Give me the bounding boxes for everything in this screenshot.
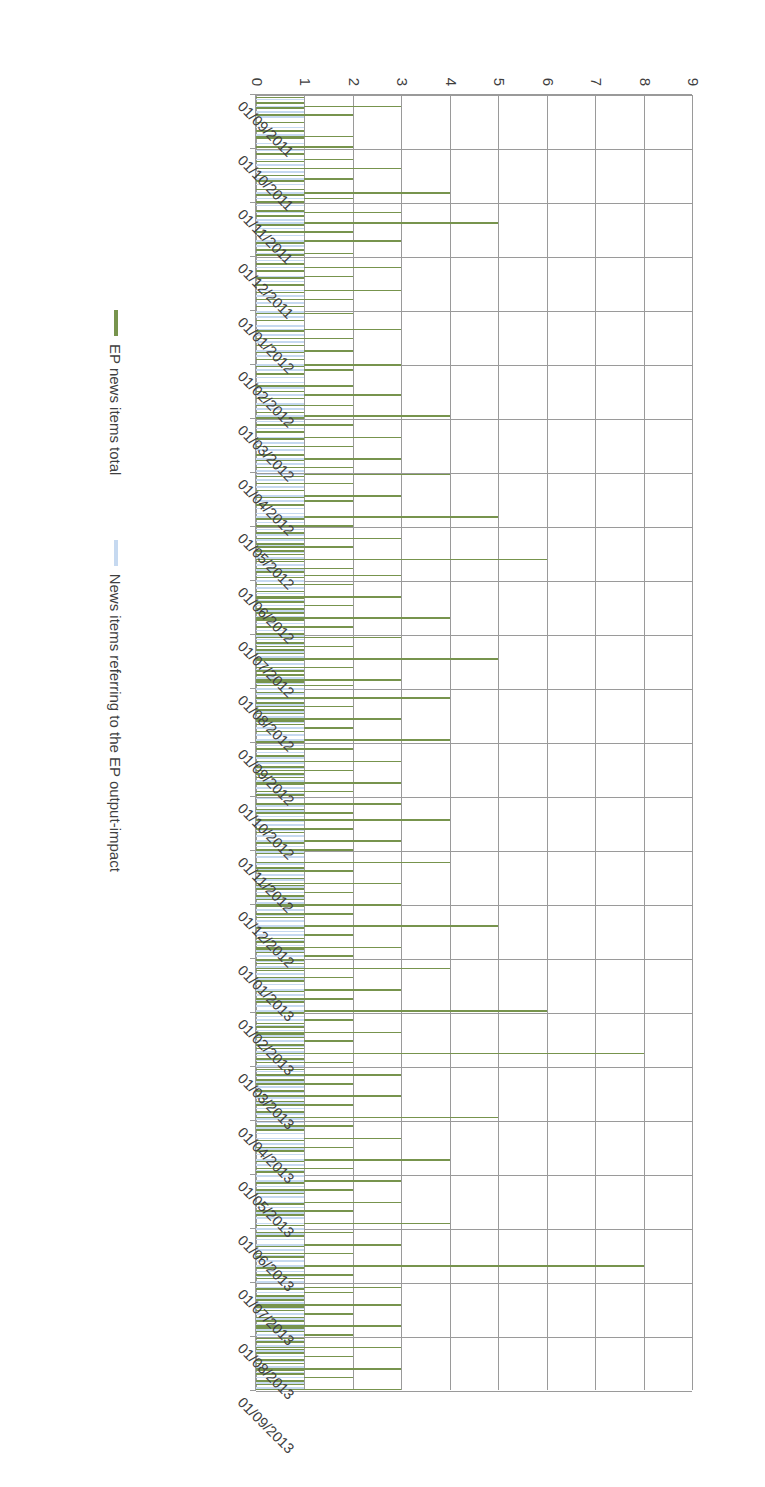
bar-group <box>256 553 692 555</box>
bar-group <box>256 751 692 753</box>
tick-category-9 <box>250 580 256 581</box>
bar-group <box>256 1121 692 1123</box>
legend-swatch-total-icon <box>114 310 118 336</box>
bar-segment-total <box>256 1082 353 1084</box>
bar-group <box>256 1228 692 1230</box>
bar-group <box>256 934 692 936</box>
bar-group <box>256 941 692 943</box>
bar-group <box>256 427 692 429</box>
bar-group <box>256 1203 692 1205</box>
bar-group <box>256 905 692 907</box>
bar-group <box>256 645 692 647</box>
bar-segment-impact <box>256 757 304 759</box>
bar-group <box>256 204 692 206</box>
bar-group <box>256 259 692 261</box>
tick-category-16 <box>250 958 256 959</box>
bar-group <box>256 171 692 173</box>
bar-group <box>256 270 692 272</box>
bar-group <box>256 442 692 444</box>
bar-group <box>256 638 692 640</box>
bar-group <box>256 479 692 481</box>
bar-segment-impact <box>256 98 304 100</box>
bar-group <box>256 652 692 654</box>
bar-group <box>256 142 692 144</box>
bar-group <box>256 149 692 151</box>
bar-segment-total <box>256 652 304 654</box>
tick-category-2 <box>250 202 256 203</box>
tick-category-11 <box>250 688 256 689</box>
bar-group <box>256 1383 692 1385</box>
bar-group <box>256 1249 692 1251</box>
bar-group <box>256 284 692 286</box>
bar-group <box>256 546 692 548</box>
bar-group <box>256 723 692 725</box>
bar-group <box>256 1277 692 1279</box>
value-label-7: 7 <box>588 34 605 86</box>
bar-group <box>256 116 692 118</box>
bar-group <box>256 1259 692 1261</box>
bar-group <box>256 1171 692 1173</box>
bar-group <box>256 856 692 858</box>
bar-group <box>256 445 692 447</box>
bar-segment-total <box>256 1298 304 1300</box>
bar-group <box>256 1182 692 1184</box>
bar-group <box>256 539 692 541</box>
bar-segment-impact <box>256 486 304 488</box>
bar-group <box>256 969 692 971</box>
bar-segment-total <box>256 969 304 971</box>
bar-group <box>256 302 692 304</box>
bar-group <box>256 241 692 243</box>
bar-group <box>256 390 692 392</box>
bar-group <box>256 319 692 321</box>
bar-segment-total <box>256 1245 304 1247</box>
bar-group <box>256 146 692 148</box>
bar-group <box>256 411 692 413</box>
bar-group <box>256 1019 692 1021</box>
value-label-9: 9 <box>685 34 702 86</box>
bar-group <box>256 341 692 343</box>
bar-group <box>256 351 692 353</box>
bar-group <box>256 334 692 336</box>
bar-group <box>256 583 692 585</box>
bar-group <box>256 394 692 396</box>
bar-segment-impact <box>256 751 304 753</box>
bar-group <box>256 705 692 707</box>
bar-group <box>256 1298 692 1300</box>
bar-group <box>256 571 692 573</box>
bar-group <box>256 898 692 900</box>
bar-group <box>256 564 692 566</box>
bar-group <box>256 470 692 472</box>
bar-group <box>256 909 692 911</box>
bar-group <box>256 466 692 468</box>
bar-group <box>256 486 692 488</box>
bar-group <box>256 688 692 690</box>
tick-category-21 <box>250 1228 256 1229</box>
bar-group <box>256 254 692 256</box>
bar-group <box>256 404 692 406</box>
bar-group <box>256 194 692 196</box>
bar-group <box>256 387 692 389</box>
bar-group <box>256 107 692 109</box>
bar-group <box>256 397 692 399</box>
bar-group <box>256 1291 692 1293</box>
bar-group <box>256 344 692 346</box>
bar-group <box>256 1389 692 1390</box>
bar-segment-impact <box>256 1291 304 1293</box>
bar-segment-impact <box>256 266 304 268</box>
plot-area <box>256 94 692 1390</box>
bar-group <box>256 1185 692 1187</box>
bar-group <box>256 496 692 498</box>
bar-segment-total <box>256 1352 304 1354</box>
bar-group <box>256 1175 692 1177</box>
bar-group <box>256 1213 692 1215</box>
bar-group <box>256 500 692 502</box>
bar-group <box>256 1341 692 1343</box>
tick-category-23 <box>250 1336 256 1337</box>
bar-segment-total <box>256 546 353 548</box>
bar-group <box>256 629 692 631</box>
bar-group <box>256 576 692 578</box>
bar-group <box>256 298 692 300</box>
bar-segment-total <box>256 102 304 104</box>
bar-group <box>256 611 692 613</box>
tick-category-19 <box>250 1120 256 1121</box>
